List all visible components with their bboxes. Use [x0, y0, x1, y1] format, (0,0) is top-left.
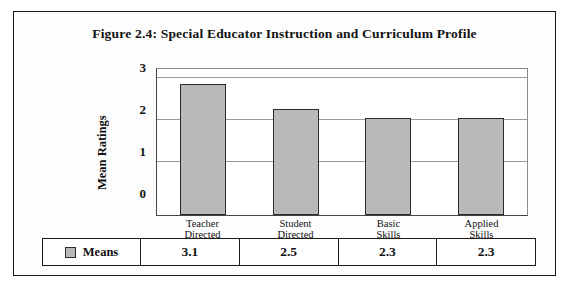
- legend-swatch-icon: [65, 247, 76, 258]
- category-label-teacher-directed: Teacher Directed: [159, 218, 247, 240]
- bar-student-directed: [273, 109, 319, 215]
- bar-group: [157, 69, 527, 215]
- bar-basic-skills: [365, 118, 411, 215]
- legend-label: Means: [83, 245, 118, 260]
- y-tick-label-0: 0: [120, 186, 146, 202]
- category-label-line-1: Basic: [345, 218, 433, 229]
- bar-teacher-directed: [180, 84, 226, 215]
- bar-applied-skills: [458, 118, 504, 215]
- y-tick-label-2: 2: [120, 102, 146, 118]
- y-axis-label: Mean Ratings: [94, 98, 110, 208]
- data-table: Means 3.1 2.5 2.3 2.3: [42, 238, 536, 266]
- value-cell-applied-skills: 2.3: [437, 239, 535, 265]
- value-cell-student-directed: 2.5: [240, 239, 339, 265]
- category-label-student-directed: Student Directed: [252, 218, 340, 240]
- category-label-basic-skills: Basic Skills: [345, 218, 433, 240]
- legend-entry-means: Means: [43, 239, 141, 265]
- category-labels: Teacher Directed Student Directed Basic …: [156, 218, 528, 240]
- category-label-line-1: Teacher: [159, 218, 247, 229]
- plot-area: [156, 68, 528, 216]
- y-tick-label-1: 1: [120, 144, 146, 160]
- value-cell-teacher-directed: 3.1: [141, 239, 240, 265]
- figure-frame: Figure 2.4: Special Educator Instruction…: [13, 11, 556, 276]
- value-cell-basic-skills: 2.3: [339, 239, 438, 265]
- category-label-applied-skills: Applied Skills: [438, 218, 526, 240]
- y-tick-label-3: 3: [120, 60, 146, 76]
- figure-page: Figure 2.4: Special Educator Instruction…: [0, 0, 572, 292]
- figure-title: Figure 2.4: Special Educator Instruction…: [14, 26, 555, 42]
- chart-area: Mean Ratings 3 2 1 0 Teacher Dire: [96, 64, 536, 234]
- category-label-line-1: Student: [252, 218, 340, 229]
- category-label-line-1: Applied: [438, 218, 526, 229]
